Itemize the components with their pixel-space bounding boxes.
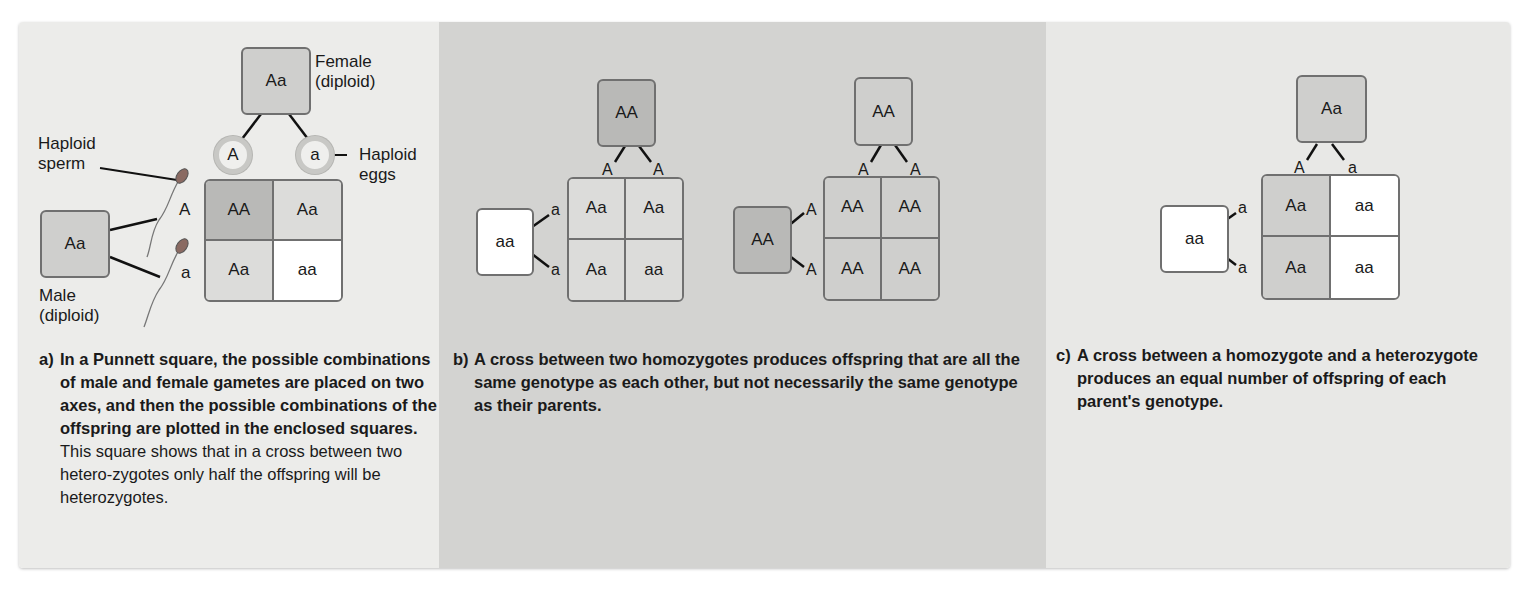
male-label-line2: (diploid) [39, 306, 99, 326]
caption-bold: A cross between two homozygotes produces… [474, 350, 1020, 414]
punnett-cell: aa [626, 240, 683, 301]
punnett-cell: Aa [1263, 237, 1331, 298]
connector-lines [439, 22, 1046, 568]
left-allele: A [806, 202, 817, 218]
haploid-eggs-label: Haploid eggs [359, 145, 417, 185]
punnett-cell: AA [882, 178, 939, 239]
genotype-label: aa [496, 232, 515, 252]
caption-bold: A cross between a homozygote and a heter… [1077, 346, 1478, 410]
punnett-cell: AA [882, 239, 939, 300]
sperm-label-line1: Haploid [38, 134, 96, 154]
punnett-cell: aa [1331, 237, 1399, 298]
genotype-label: AA [751, 230, 774, 250]
left-allele: a [551, 202, 560, 218]
male-parent-box: Aa [40, 210, 110, 278]
punnett-cell: AA [206, 181, 274, 241]
punnett-cell: aa [274, 241, 342, 301]
top-parent-box: Aa [1296, 75, 1367, 143]
haploid-sperm-label: Haploid sperm [38, 134, 96, 174]
male-label-line1: Male [39, 286, 99, 306]
figure-frame: Aa Female (diploid) A a Haploid eggs Hap… [19, 22, 1510, 568]
panel-c: Aa A a aa a a Aa aa Aa aa c) A cross bet… [1046, 22, 1510, 568]
top-parent-box: AA [854, 77, 913, 146]
punnett-cell: Aa [274, 181, 342, 241]
top-parent-box: AA [597, 79, 656, 147]
sperm-allele-A: A [179, 202, 190, 218]
punnett-cell: AA [825, 178, 882, 239]
male-label: Male (diploid) [39, 286, 99, 326]
sperm-allele-a: a [181, 265, 190, 281]
left-parent-box: AA [733, 206, 792, 274]
caption-tag: c) [1056, 344, 1071, 367]
caption-c: c) A cross between a homozygote and a he… [1056, 344, 1496, 413]
panel-a: Aa Female (diploid) A a Haploid eggs Hap… [19, 22, 439, 568]
punnett-cell: Aa [206, 241, 274, 301]
punnett-square-a: AA Aa Aa aa [204, 179, 343, 302]
punnett-cell: AA [825, 239, 882, 300]
left-allele: a [1238, 260, 1247, 276]
genotype-label: Aa [1321, 99, 1342, 119]
punnett-square-b2: AA AA AA AA [823, 176, 940, 301]
sperm-label-line2: sperm [38, 154, 96, 174]
punnett-cell: Aa [569, 179, 626, 240]
caption-tag: a) [39, 348, 54, 371]
female-label-line2: (diploid) [315, 72, 375, 92]
eggs-label-line1: Haploid [359, 145, 417, 165]
genotype-label: Aa [266, 71, 287, 91]
egg-allele: a [310, 145, 319, 165]
eggs-label-line2: eggs [359, 165, 417, 185]
female-label: Female (diploid) [315, 52, 375, 92]
egg-icon: a [296, 136, 334, 174]
left-parent-box: aa [1160, 205, 1229, 273]
punnett-cell: Aa [626, 179, 683, 240]
punnett-square-b1: Aa Aa Aa aa [567, 177, 684, 302]
top-allele: A [653, 162, 664, 178]
punnett-cell: aa [1331, 176, 1399, 237]
sperm-icon [173, 167, 190, 186]
caption-tag: b) [453, 348, 469, 371]
top-allele: A [602, 162, 613, 178]
genotype-label: aa [1185, 229, 1204, 249]
left-allele: a [1238, 200, 1247, 216]
genotype-label: AA [872, 102, 895, 122]
punnett-cell: Aa [569, 240, 626, 301]
punnett-cell: Aa [1263, 176, 1331, 237]
left-allele: A [806, 262, 817, 278]
female-parent-box: Aa [241, 47, 311, 115]
egg-allele: A [227, 145, 238, 165]
left-allele: a [551, 262, 560, 278]
caption-a: a) In a Punnett square, the possible com… [39, 348, 439, 509]
caption-b: b) A cross between two homozygotes produ… [453, 348, 1033, 417]
sperm-icon [173, 237, 190, 256]
caption-bold: In a Punnett square, the possible combin… [60, 350, 437, 437]
genotype-label: Aa [65, 234, 86, 254]
egg-icon: A [214, 136, 252, 174]
female-label-line1: Female [315, 52, 375, 72]
genotype-label: AA [615, 103, 638, 123]
left-parent-box: aa [476, 208, 534, 276]
panel-b: AA A A aa a a Aa Aa Aa aa AA A A AA A A … [439, 22, 1046, 568]
caption-normal: This square shows that in a cross betwee… [60, 442, 402, 506]
punnett-square-c: Aa aa Aa aa [1261, 174, 1400, 300]
